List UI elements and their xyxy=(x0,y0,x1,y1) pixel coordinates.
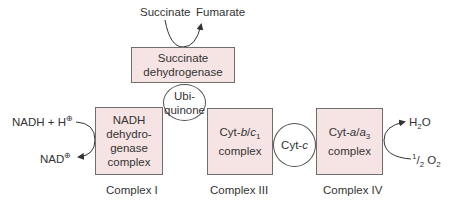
oxygen-label: 1/2 O2 xyxy=(412,152,441,169)
complex-4-box: Cyt-a/a3 complex xyxy=(316,108,383,175)
c4-line2: complex xyxy=(328,144,371,158)
arrows-layer xyxy=(0,0,451,206)
complex-3-box: Cyt-b/c1 complex xyxy=(207,108,273,175)
complex-3-caption: Complex III xyxy=(210,184,268,196)
succinate-label: Succinate xyxy=(140,6,191,18)
nadh-arrow xyxy=(76,122,95,157)
ubq-line1: Ubi- xyxy=(174,89,195,103)
nadh-label: NADH + H⊕ xyxy=(12,114,73,128)
c1-line3: genase xyxy=(110,141,148,155)
complex-1-box: NADH dehydro- genase complex xyxy=(95,107,163,175)
c3-line1: Cyt-b/c1 xyxy=(220,125,261,144)
water-label: H2O xyxy=(409,116,431,131)
fumarate-label: Fumarate xyxy=(196,6,245,18)
complex-4-caption: Complex IV xyxy=(323,184,382,196)
succinate-arrow xyxy=(165,20,201,47)
cyt-c-circle: Cyt-c xyxy=(273,123,316,167)
ubiquinone-circle: Ubi- quinone xyxy=(163,84,206,121)
c4-line1: Cyt-a/a3 xyxy=(329,125,371,144)
c1-line1: NADH xyxy=(113,113,146,127)
nad-label: NAD⊕ xyxy=(40,151,71,165)
sdh-line1: Succinate xyxy=(158,51,209,65)
c3-line2: complex xyxy=(219,144,262,158)
succinate-dehydrogenase-box: Succinate dehydrogenase xyxy=(131,47,235,83)
complex-1-caption: Complex I xyxy=(106,184,158,196)
ubq-line2: quinone xyxy=(164,103,205,117)
c1-line4: complex xyxy=(108,155,151,169)
sdh-line2: dehydrogenase xyxy=(143,65,222,79)
cytc-label: Cyt-c xyxy=(281,138,308,152)
oxygen-arrow xyxy=(384,122,411,159)
c1-line2: dehydro- xyxy=(106,127,151,141)
